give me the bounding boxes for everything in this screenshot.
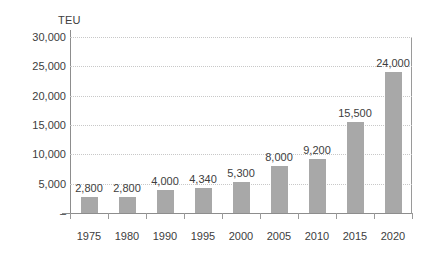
x-axis-tick (260, 213, 261, 219)
bar (385, 72, 402, 213)
gridline (70, 66, 412, 67)
y-axis-tick-label: 15,000 (8, 120, 66, 131)
bar (347, 122, 364, 213)
bar (309, 159, 326, 213)
gridline (70, 96, 412, 97)
x-axis-tick (412, 213, 413, 219)
x-axis-category-label: 2020 (370, 230, 416, 242)
y-axis-tick-label: 20,000 (8, 91, 66, 102)
bar (157, 190, 174, 213)
x-axis-tick (336, 213, 337, 219)
bar (271, 166, 288, 213)
x-axis-tick (184, 213, 185, 219)
bar (195, 188, 212, 213)
bar (233, 182, 250, 213)
x-axis-tick (222, 213, 223, 219)
bar-value-label: 24,000 (370, 58, 416, 69)
x-axis-tick (108, 213, 109, 219)
x-axis-tick (146, 213, 147, 219)
x-axis-tick (374, 213, 375, 219)
y-axis-tick-label: 30,000 (8, 32, 66, 43)
y-axis-tick-label: 25,000 (8, 61, 66, 72)
bar-value-label: 15,500 (332, 108, 378, 119)
x-axis-line (62, 213, 412, 214)
y-axis-tick-labels: 30,00025,00020,00015,00010,0005,000– (2, 0, 66, 262)
bar (81, 197, 98, 213)
x-axis-tick (70, 213, 71, 219)
bar (119, 197, 136, 213)
bar-value-label: 9,200 (294, 145, 340, 156)
y-axis-tick-label: 5,000 (8, 179, 66, 190)
x-axis-tick (298, 213, 299, 219)
bar-chart: TEU 30,00025,00020,00015,00010,0005,000–… (0, 0, 429, 262)
gridline (70, 37, 412, 38)
bar-value-label: 5,300 (218, 168, 264, 179)
y-axis-tick-label: 10,000 (8, 149, 66, 160)
y-axis-tick-label: – (8, 208, 66, 219)
